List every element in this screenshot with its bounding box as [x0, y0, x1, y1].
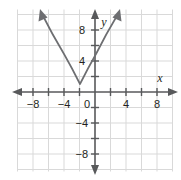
- y-tick-label-neg4: −4: [75, 117, 88, 129]
- x-axis-label: x: [156, 71, 163, 85]
- x-tick-label-neg4: −4: [58, 98, 71, 110]
- x-tick-label-neg8: −8: [27, 98, 40, 110]
- chart-background: [0, 0, 181, 180]
- y-tick-label-pos4: 4: [79, 55, 85, 67]
- coordinate-plane-chart: x y −8 −4 0 4 8 8 4 −4 −8: [0, 0, 181, 180]
- x-tick-label-pos4: 4: [123, 98, 129, 110]
- y-axis-label: y: [100, 15, 107, 29]
- origin-label: 0: [84, 98, 90, 110]
- y-tick-label-neg8: −8: [75, 148, 88, 160]
- coordinate-graph-figure: x y −8 −4 0 4 8 8 4 −4 −8: [0, 0, 181, 180]
- y-tick-label-pos8: 8: [79, 24, 85, 36]
- x-tick-label-pos8: 8: [154, 98, 160, 110]
